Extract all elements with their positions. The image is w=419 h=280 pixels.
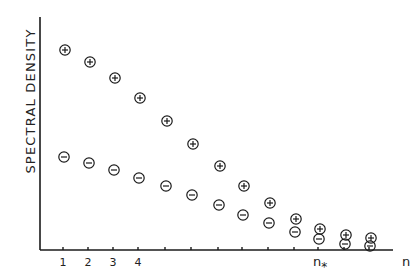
tick-label-4: 4 <box>135 256 142 269</box>
circled-minus-icon <box>264 218 274 228</box>
tick-label-3: 3 <box>110 256 117 269</box>
circled-minus-icon <box>161 181 171 191</box>
circled-minus-icon <box>238 210 248 220</box>
circled-plus-icon <box>315 224 325 234</box>
circled-minus-icon <box>187 190 197 200</box>
circled-plus-icon <box>162 116 172 126</box>
circled-minus-icon <box>314 234 324 244</box>
tick-label-1: 1 <box>60 256 67 269</box>
circled-minus-icon <box>290 227 300 237</box>
circled-plus-icon <box>239 181 249 191</box>
circled-plus-icon <box>135 93 145 103</box>
n-star-subscript: * <box>321 260 327 274</box>
data-points <box>59 45 376 251</box>
n-star-n: n <box>313 254 321 269</box>
n-axis-label: n <box>402 254 410 269</box>
circled-plus-icon <box>215 161 225 171</box>
circled-minus-icon <box>84 158 94 168</box>
circled-minus-icon <box>214 200 224 210</box>
circled-minus-icon <box>109 165 119 175</box>
y-axis-label: SPECTRAL DENSITY <box>23 28 38 173</box>
circled-plus-icon <box>265 198 275 208</box>
circled-plus-icon <box>291 214 301 224</box>
circled-plus-icon <box>85 57 95 67</box>
circled-minus-icon <box>134 173 144 183</box>
circled-plus-icon <box>60 45 70 55</box>
spectral-density-chart <box>0 0 419 280</box>
circled-plus-icon <box>110 73 120 83</box>
n-star-label: n* <box>313 254 327 269</box>
circled-plus-icon <box>188 139 198 149</box>
tick-label-2: 2 <box>85 256 92 269</box>
circled-minus-icon <box>59 152 69 162</box>
